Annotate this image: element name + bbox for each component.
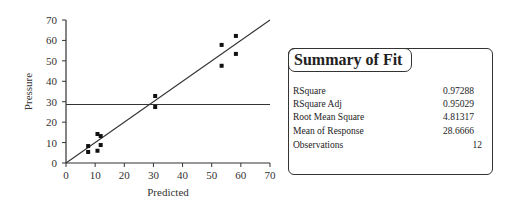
row-value: 0.95029: [443, 99, 474, 109]
y-tick-label: 70: [46, 14, 58, 26]
x-axis-label: Predicted: [147, 186, 189, 198]
x-tick-label: 30: [148, 169, 160, 181]
summary-row: Mean of Response 28.6666: [293, 126, 482, 139]
summary-row: Observations 12: [293, 140, 482, 153]
data-point: [95, 149, 99, 153]
data-point: [86, 144, 90, 148]
row-label: RSquare Adj: [293, 99, 342, 109]
data-point: [86, 150, 90, 154]
data-point: [234, 34, 238, 38]
row-value: 0.97288: [443, 86, 474, 96]
fit-line: [66, 20, 270, 163]
y-tick-label: 60: [46, 34, 58, 46]
y-tick-label: 20: [46, 116, 58, 128]
data-point: [234, 52, 238, 56]
y-tick-label: 30: [46, 96, 58, 108]
x-tick-label: 10: [90, 169, 102, 181]
row-label: Observations: [293, 140, 343, 150]
row-value: 12: [473, 140, 483, 150]
x-tick-label: 0: [63, 169, 69, 181]
x-tick-label: 70: [265, 169, 277, 181]
y-tick-label: 40: [46, 75, 58, 87]
row-label: RSquare: [293, 86, 326, 96]
y-tick-label: 50: [46, 55, 58, 67]
y-tick-label: 10: [46, 137, 58, 149]
y-tick-label: 0: [52, 157, 58, 169]
data-point: [220, 43, 224, 47]
x-tick-label: 60: [235, 169, 247, 181]
summary-title: Summary of Fit: [288, 48, 412, 72]
data-point: [99, 134, 103, 138]
x-tick-label: 40: [177, 169, 189, 181]
row-label: Root Mean Square: [293, 112, 364, 122]
row-value: 28.6666: [443, 126, 474, 136]
summary-row: RSquare Adj 0.95029: [293, 99, 482, 112]
summary-row: Root Mean Square 4.81317: [293, 112, 482, 125]
summary-of-fit-panel: Summary of Fit RSquare 0.97288 RSquare A…: [288, 48, 493, 175]
data-point: [220, 64, 224, 68]
summary-row: RSquare 0.97288: [293, 86, 482, 99]
actual-by-predicted-plot: 010203040506070010203040506070PredictedP…: [0, 0, 285, 202]
data-point: [99, 143, 103, 147]
data-point: [153, 105, 157, 109]
x-tick-label: 50: [206, 169, 218, 181]
data-point: [153, 94, 157, 98]
row-value: 4.81317: [443, 112, 474, 122]
row-label: Mean of Response: [293, 126, 364, 136]
y-axis-label: Pressure: [22, 73, 34, 110]
x-tick-label: 20: [119, 169, 131, 181]
